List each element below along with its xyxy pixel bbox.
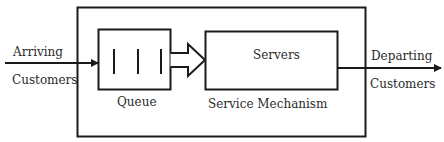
service-mechanism-label: Service Mechanism <box>208 98 327 110</box>
queue-to-server-block-arrow <box>171 44 206 76</box>
queue-label: Queue <box>117 96 157 108</box>
servers-label: Servers <box>253 49 300 61</box>
queue-box <box>99 30 171 90</box>
queue-diagram-canvas <box>0 0 444 142</box>
departing-customers-label: Customers <box>370 78 436 90</box>
departing-label: Departing <box>371 50 432 62</box>
arriving-label: Arriving <box>13 46 63 58</box>
arriving-customers-label: Customers <box>12 74 78 86</box>
